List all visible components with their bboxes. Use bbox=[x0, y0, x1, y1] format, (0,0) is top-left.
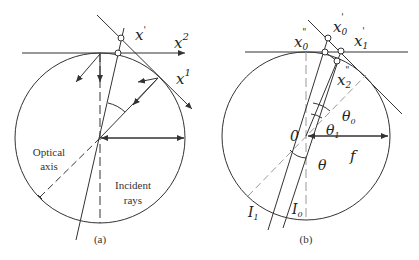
label-I0: I0 bbox=[291, 201, 303, 219]
arrow-x1-down bbox=[133, 78, 158, 105]
ray-x1p bbox=[306, 52, 341, 136]
panel-b bbox=[222, 20, 408, 230]
angle-arc-a bbox=[108, 103, 125, 112]
point-x0p bbox=[325, 35, 331, 41]
label-x0pp: x0" bbox=[294, 27, 308, 52]
label-optical-axis-1: Optical bbox=[33, 146, 65, 158]
label-origin: 0 bbox=[290, 128, 299, 144]
figure: x' x2 x1 Optical axis Incident rays (a) … bbox=[0, 0, 419, 260]
label-x1p: x1' bbox=[354, 26, 368, 51]
label-optical-axis-2: axis bbox=[40, 160, 58, 172]
label-x2pp: x2" bbox=[337, 65, 351, 90]
panel-a bbox=[15, 15, 192, 240]
diag-arrow-a bbox=[76, 54, 100, 82]
label-I1: I1 bbox=[247, 204, 259, 222]
label-incident-1: Incident bbox=[115, 179, 151, 191]
point-x0pp bbox=[322, 49, 328, 55]
caption-b: (b) bbox=[300, 233, 313, 246]
label-x0p: x0' bbox=[333, 12, 347, 37]
point-x2pp bbox=[334, 58, 340, 64]
caption-a: (a) bbox=[94, 233, 107, 246]
label-theta1: θ1 bbox=[326, 122, 340, 140]
label-x2: x2 bbox=[174, 31, 189, 52]
label-f: f bbox=[349, 147, 358, 165]
label-incident-2: rays bbox=[124, 194, 142, 206]
label-x-prime: x' bbox=[135, 25, 146, 44]
label-theta: θ bbox=[318, 157, 327, 173]
label-theta0: θ0 bbox=[342, 108, 356, 126]
point-x1p bbox=[338, 48, 344, 54]
point-x-prime bbox=[118, 35, 124, 41]
label-x1: x1 bbox=[176, 67, 191, 88]
point-intersection-a bbox=[115, 50, 121, 56]
